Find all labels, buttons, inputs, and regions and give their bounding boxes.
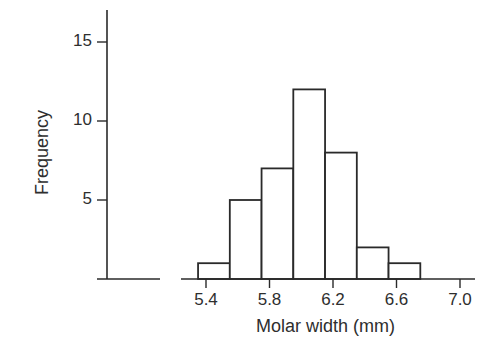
histogram-bars	[198, 89, 420, 279]
x-tick-label: 7.0	[435, 290, 485, 310]
y-tick-label: 5	[52, 189, 92, 209]
x-tick-label: 5.8	[245, 290, 295, 310]
y-axis-label: Frequency	[32, 110, 53, 195]
x-tick-label: 6.2	[308, 290, 358, 310]
x-axis-ticks	[206, 279, 460, 288]
histogram-bar	[325, 153, 357, 279]
x-axis-label: Molar width (mm)	[256, 316, 395, 337]
histogram-bar	[262, 168, 294, 279]
y-tick-label: 15	[52, 31, 92, 51]
x-tick-label: 5.4	[181, 290, 231, 310]
histogram-bar	[198, 263, 230, 279]
histogram-bar	[293, 89, 325, 279]
x-tick-label: 6.6	[372, 290, 422, 310]
y-tick-label: 10	[52, 110, 92, 130]
histogram-bar	[357, 247, 389, 279]
y-axis-ticks	[97, 42, 107, 200]
histogram-bar	[389, 263, 421, 279]
histogram-bar	[230, 200, 262, 279]
